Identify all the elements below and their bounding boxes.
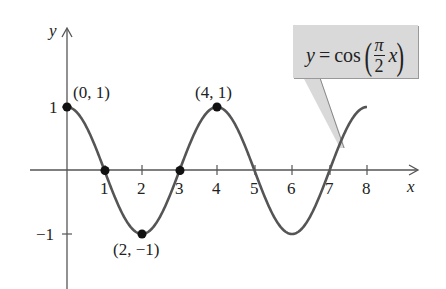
formula-lhs: y [306, 44, 315, 67]
formula-equals: = [319, 44, 330, 67]
x-tick-label: 8 [362, 180, 371, 197]
formula-fraction: π 2 [374, 36, 385, 75]
x-tick-label: 6 [287, 180, 296, 197]
point-0-1 [63, 103, 72, 112]
y-tick-label: −1 [36, 226, 54, 243]
y-axis-label: y [49, 22, 57, 39]
point-label-4-1: (4, 1) [195, 84, 232, 101]
formula-func: cos [334, 44, 361, 67]
x-tick-label: 1 [100, 180, 109, 197]
y-tick-label: 1 [49, 99, 58, 116]
point-4-1 [213, 103, 222, 112]
point-3-0 [176, 166, 185, 175]
x-tick-label: 5 [250, 180, 259, 197]
point-label-2-neg1: (2, −1) [113, 241, 159, 258]
fraction-denominator: 2 [375, 56, 384, 75]
fraction-numerator: π [374, 36, 385, 56]
x-tick-label: 7 [325, 180, 334, 197]
left-paren-icon: ( [364, 37, 372, 75]
x-tick-label: 3 [175, 180, 184, 197]
point-1-0 [101, 166, 110, 175]
x-tick-label: 2 [137, 180, 146, 197]
x-tick-label: 4 [212, 180, 221, 197]
point-label-0-1: (0, 1) [73, 84, 110, 101]
function-formula: y = cos ( π 2 x ) [306, 36, 404, 75]
callout-pointer [303, 77, 345, 148]
right-paren-icon: ) [397, 37, 405, 75]
x-axis-label: x [407, 178, 415, 195]
point-2-neg1 [138, 230, 147, 239]
